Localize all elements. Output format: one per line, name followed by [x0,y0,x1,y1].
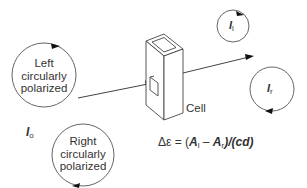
right-label-line2: circularly [51,148,115,161]
equation-a-right: A [213,135,222,149]
transmitted-beam-arrow [183,54,254,73]
incident-subscript: o [29,131,33,140]
left-label-line1: Left [12,57,76,70]
left-polarized-label: Left circularly polarized [12,57,76,95]
circular-dichroism-diagram: Left circularly polarized Right circular… [0,0,307,188]
equation-a-left: A [189,135,198,149]
output-right-subscript: r [270,87,273,96]
right-label-line3: polarized [51,160,115,173]
cuvette-cell-icon [146,34,183,120]
right-label-line1: Right [51,135,115,148]
cell-label: Cell [186,102,206,115]
equation-minus: – [200,135,213,149]
output-left-subscript: l [232,24,234,33]
delta-epsilon-equation: Δε = (Al – Ar)/(cd) [158,136,254,151]
output-right-intensity-label: Ir [267,82,273,97]
right-polarized-label: Right circularly polarized [51,135,115,173]
left-label-line2: circularly [12,70,76,83]
equation-rhs: )/(cd) [224,135,253,149]
incident-beam-arrow [78,81,154,99]
equation-lhs: Δε = ( [158,135,189,149]
left-label-line3: polarized [12,82,76,95]
incident-intensity-label: Io [26,126,34,141]
output-left-intensity-label: Il [229,19,234,34]
